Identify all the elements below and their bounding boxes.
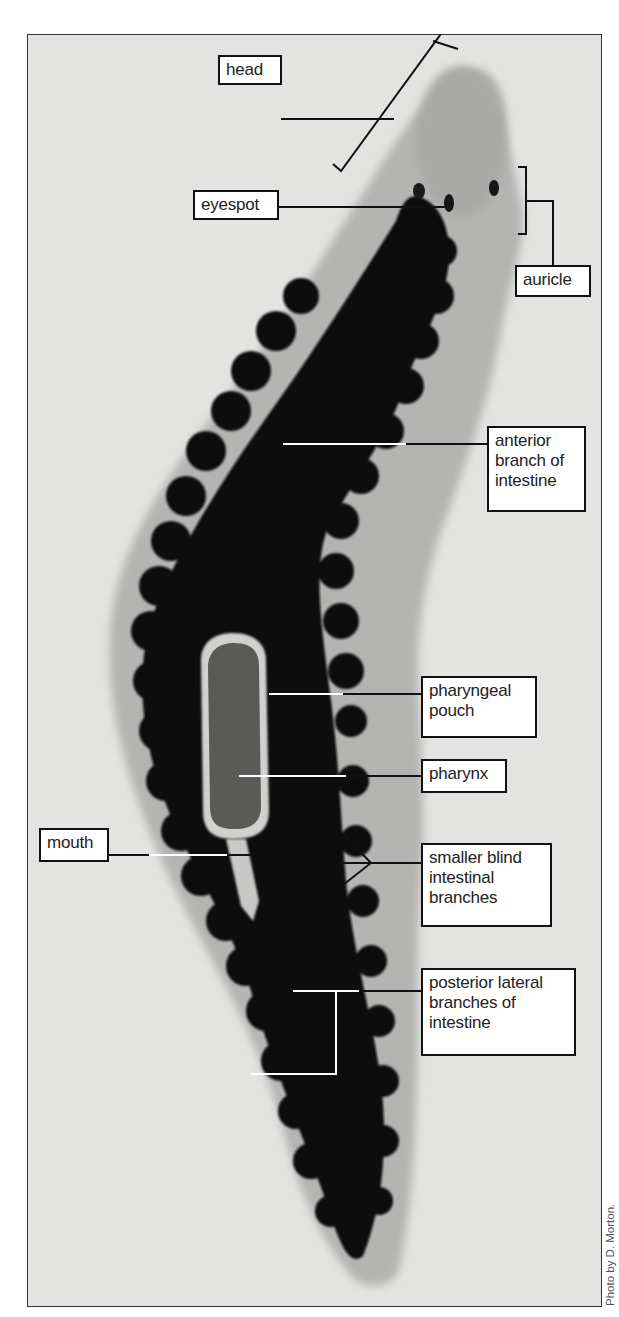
label-mouth: mouth (39, 828, 109, 862)
label-auricle: auricle (515, 265, 591, 297)
label-anterior-branch: anterior branch of intestine (487, 426, 586, 512)
eyespot-mark (489, 180, 499, 196)
specimen-photo: head eyespot auricle anterior branch of … (27, 34, 602, 1307)
label-eyespot: eyespot (193, 190, 279, 220)
planarian-illustration (28, 35, 602, 1307)
label-posterior-lateral-branches: posterior lateral branches of intestine (421, 968, 576, 1056)
label-pharynx: pharynx (421, 759, 507, 793)
eyespot-mark (413, 183, 425, 199)
eyespot-mark (444, 194, 454, 212)
label-pharyngeal-pouch: pharyngeal pouch (421, 676, 537, 738)
photo-credit: Photo by D. Morton. (604, 1204, 616, 1306)
label-smaller-blind-branches: smaller blind intestinal branches (421, 843, 552, 927)
label-head: head (218, 55, 282, 85)
